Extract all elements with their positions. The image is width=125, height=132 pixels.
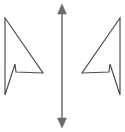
diagram-canvas: [0, 0, 125, 132]
diagram-root: [0, 0, 125, 132]
